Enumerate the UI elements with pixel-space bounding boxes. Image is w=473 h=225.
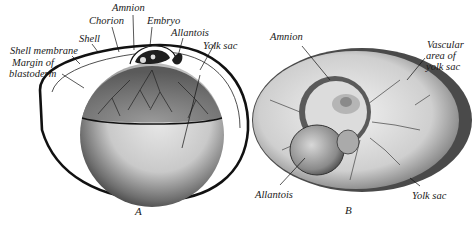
label-vascular-line2-b: area of: [426, 51, 456, 61]
egg-diagram-artwork: [0, 0, 473, 225]
label-amnion-a: Amnion: [112, 3, 145, 13]
label-yolk-sac-b: Yolk sac: [412, 191, 446, 201]
label-shell-a: Shell: [79, 34, 100, 44]
label-amnion-b: Amnion: [270, 32, 303, 42]
label-embryo-a: Embryo: [147, 16, 180, 26]
label-yolk-sac-a: Yolk sac: [203, 41, 237, 51]
label-vascular-line3-b: yolk sac: [426, 62, 460, 72]
label-margin-line1-a: Margin of: [12, 58, 54, 68]
label-shell-membrane-a: Shell membrane: [10, 46, 78, 56]
label-allantois-b: Allantois: [255, 190, 293, 200]
label-vascular-line1-b: Vascular: [427, 40, 464, 50]
caption-b: B: [345, 204, 352, 216]
caption-a: A: [135, 205, 142, 217]
label-margin-line2-a: blastoderm: [9, 69, 56, 79]
label-allantois-a: Allantois: [171, 28, 209, 38]
label-chorion-a: Chorion: [89, 16, 124, 26]
